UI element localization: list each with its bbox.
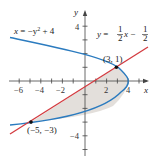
svg-text:2: 2 <box>118 33 123 43</box>
x-tick-neg4: −4 <box>35 85 45 95</box>
point-neg5-neg3 <box>29 120 33 124</box>
point-3-1-label: (3, 1) <box>103 54 123 64</box>
x-axis-label: x <box>143 85 148 95</box>
shaded-region <box>31 67 128 122</box>
parabola-equation-label: x = −y2 + 4 <box>13 26 55 37</box>
svg-text:2: 2 <box>143 33 148 43</box>
y-axis-label: y <box>73 7 78 17</box>
y-axis-arrow-icon <box>83 10 87 16</box>
svg-text:x −: x − <box>123 29 135 39</box>
y-tick-neg4: −4 <box>70 131 80 141</box>
line-equation-label: y = 1 2 x − 1 2 <box>96 24 148 43</box>
point-neg5-neg3-label: (−5, −3) <box>27 125 57 135</box>
y-axis <box>83 13 88 156</box>
x-tick-2: 2 <box>104 85 108 95</box>
x-tick-neg6: −6 <box>14 85 23 95</box>
point-3-1 <box>115 66 119 70</box>
x-tick-neg2: −2 <box>56 85 65 95</box>
x-axis-arrow-icon <box>143 79 149 83</box>
svg-text:y =: y = <box>96 29 108 39</box>
y-tick-4: 4 <box>75 22 80 32</box>
graph-canvas: −6 −4 −2 2 4 4 −4 x y (3, 1) (−5, −3) x … <box>0 0 162 160</box>
